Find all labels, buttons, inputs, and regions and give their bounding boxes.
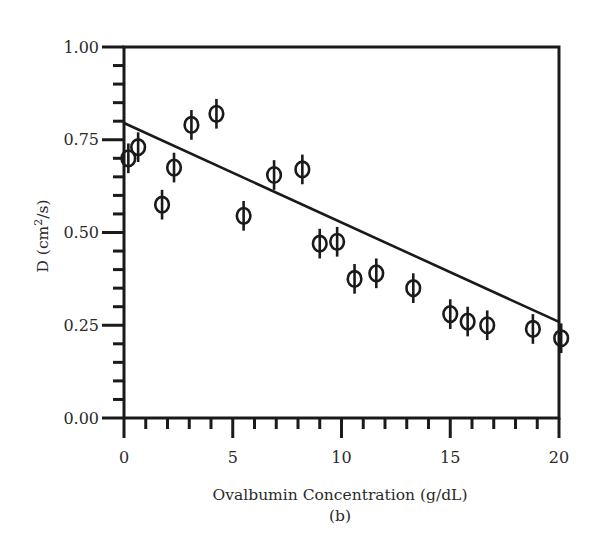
data-point: [210, 99, 224, 129]
data-points: [122, 99, 568, 353]
x-tick-label: 15: [440, 448, 460, 467]
x-tick-label: 5: [228, 448, 238, 467]
data-point: [237, 201, 251, 231]
data-point: [406, 273, 420, 303]
data-point: [155, 190, 169, 220]
data-point: [554, 323, 568, 353]
data-point: [526, 314, 540, 344]
data-point: [313, 229, 327, 259]
x-tick-label: 0: [119, 448, 129, 467]
scatter-chart: 0.000.250.500.751.00 05101520 Ovalbumin …: [0, 0, 595, 553]
data-point: [131, 132, 145, 162]
linear-fit-line: [124, 123, 559, 322]
plot-frame: [124, 47, 559, 418]
y-axis-label-main: D (cm: [34, 225, 52, 272]
data-point: [296, 155, 310, 185]
figure-caption: (b): [329, 507, 351, 525]
data-point: [167, 153, 181, 183]
x-axis-label: Ovalbumin Concentration (g/dL): [213, 486, 468, 504]
y-tick-label: 0.25: [63, 316, 99, 335]
x-tick-label: 20: [549, 448, 569, 467]
x-tick-label: 10: [331, 448, 351, 467]
data-point: [480, 310, 494, 340]
data-point: [461, 307, 475, 337]
fit-line-group: [124, 123, 559, 322]
plot-frame-box: [124, 47, 559, 418]
data-point: [348, 264, 362, 294]
y-tick-label: 0.50: [63, 223, 99, 242]
data-point: [443, 299, 457, 329]
data-point: [185, 110, 199, 140]
y-axis-label-tail: /s): [34, 199, 52, 218]
y-axis-ticks: 0.000.250.500.751.00: [63, 38, 124, 428]
y-axis-label-superscript: 2: [32, 219, 45, 226]
y-tick-label: 1.00: [63, 38, 99, 57]
y-tick-label: 0.75: [63, 130, 99, 149]
data-point: [370, 258, 384, 288]
data-point: [330, 227, 344, 257]
data-point: [267, 160, 281, 190]
y-axis-label: D (cm2/s): [32, 199, 52, 272]
x-axis-ticks: 05101520: [119, 418, 569, 467]
y-tick-label: 0.00: [63, 409, 99, 428]
